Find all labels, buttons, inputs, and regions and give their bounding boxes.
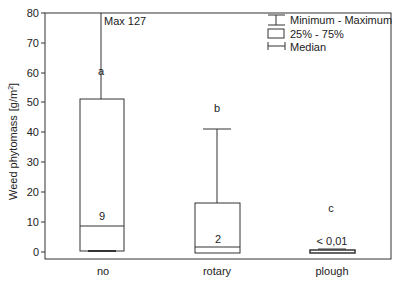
svg-text:20: 20 (27, 186, 39, 198)
legend: Minimum - Maximum 25% - 75% Median (268, 14, 392, 53)
box-plough (310, 249, 355, 253)
median-label-no: 9 (99, 210, 105, 222)
y-axis-label: Weed phytomass[g/m2] (7, 83, 19, 200)
svg-text:70: 70 (27, 37, 39, 49)
median-label-rotary: 2 (215, 233, 221, 245)
svg-text:rotary: rotary (203, 265, 232, 277)
boxplot-chart: 0 10 20 30 40 50 60 70 80 Weed phytomass… (0, 0, 397, 284)
svg-text:Median: Median (290, 41, 326, 53)
y-tick-labels: 0 10 20 30 40 50 60 70 80 (27, 7, 39, 258)
plot-frame (45, 13, 391, 259)
x-tick-labels: no rotary plough (97, 265, 349, 277)
group-letter-b: b (214, 102, 220, 114)
svg-text:0: 0 (33, 246, 39, 258)
svg-text:Minimum - Maximum: Minimum - Maximum (290, 14, 392, 26)
group-letter-a: a (98, 65, 105, 77)
max-label-no: Max 127 (104, 15, 146, 27)
legend-minmax-icon (268, 15, 285, 25)
svg-text:10: 10 (27, 216, 39, 228)
svg-text:40: 40 (27, 126, 39, 138)
median-label-plough: < 0,01 (317, 235, 348, 247)
svg-text:50: 50 (27, 96, 39, 108)
group-letter-c: c (328, 202, 334, 214)
svg-text:plough: plough (315, 265, 348, 277)
svg-text:no: no (97, 265, 109, 277)
svg-text:25% - 75%: 25% - 75% (290, 28, 344, 40)
svg-text:60: 60 (27, 67, 39, 79)
legend-median-icon (268, 42, 285, 50)
svg-text:30: 30 (27, 156, 39, 168)
svg-text:80: 80 (27, 7, 39, 19)
y-axis (41, 13, 45, 252)
legend-box-icon (268, 29, 284, 38)
